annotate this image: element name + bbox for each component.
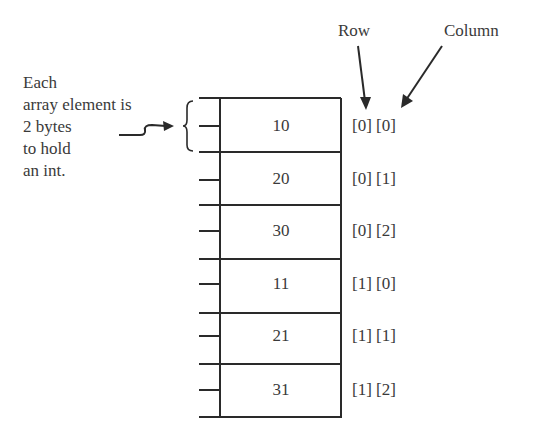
cell-value: 21 [222, 326, 340, 346]
cell-index: [1] [1] [352, 326, 396, 346]
annotation-line: 2 bytes [23, 116, 132, 138]
cell-value: 20 [222, 169, 340, 189]
column-arrow-icon [406, 46, 442, 100]
cell-index: [1] [0] [352, 274, 396, 294]
element-size-annotation: Each array element is 2 bytes to hold an… [23, 72, 132, 182]
brace-icon [183, 101, 193, 151]
column-label: Column [444, 21, 499, 41]
annotation-line: an int. [23, 160, 132, 182]
cell-index: [0] [0] [352, 116, 396, 136]
annotation-line: to hold [23, 138, 132, 160]
row-arrow-icon [358, 46, 365, 101]
annotation-line: Each [23, 72, 132, 94]
cell-value: 30 [222, 221, 340, 241]
cell-index: [0] [1] [352, 169, 396, 189]
cell-value: 10 [222, 116, 340, 136]
annotation-line: array element is [23, 94, 132, 116]
cell-value: 11 [222, 274, 340, 294]
cell-index: [1] [2] [352, 380, 396, 400]
cell-value: 31 [222, 380, 340, 400]
cell-index: [0] [2] [352, 221, 396, 241]
row-label: Row [338, 21, 370, 41]
arrowhead-icon [163, 121, 174, 131]
